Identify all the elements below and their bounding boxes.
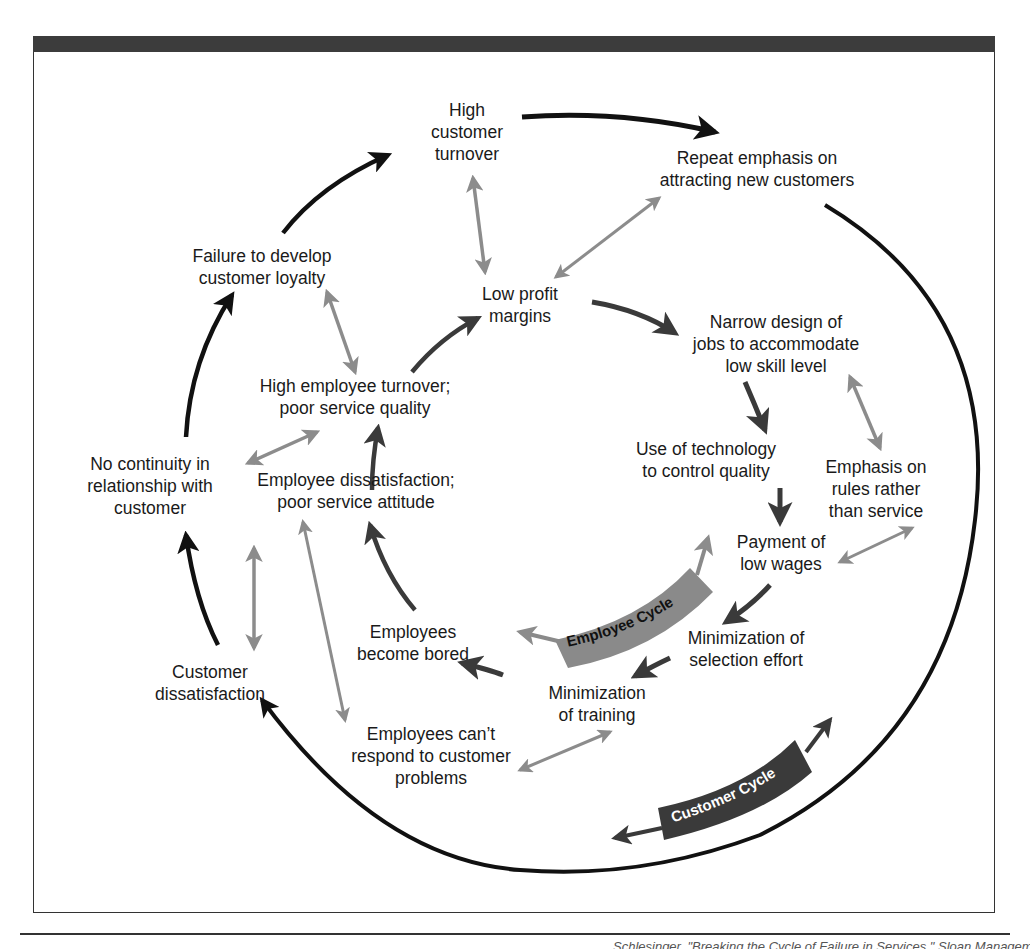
node-line: selection effort	[689, 650, 803, 670]
node-line: Employees can’t	[367, 724, 496, 744]
node-customer-dissatisfaction: Customerdissatisfaction	[155, 662, 265, 704]
node-line: customer	[114, 498, 186, 518]
link-loyalty-emp-turnover	[327, 292, 355, 372]
node-line: High employee turnover;	[260, 376, 451, 396]
node-min-selection: Minimization ofselection effort	[688, 628, 805, 670]
node-line: Low profit	[482, 284, 558, 304]
diagram-nodes: HighcustomerturnoverRepeat emphasis onat…	[87, 100, 926, 788]
node-line: than service	[829, 501, 923, 521]
arrow-no-continuity-to-failure	[186, 295, 232, 437]
link-emp-dissatisfaction-cant-respond	[303, 522, 345, 720]
node-line: Failure to develop	[192, 246, 331, 266]
link-wages-rules	[840, 528, 912, 562]
node-line: Emphasis on	[825, 457, 926, 477]
node-line: Payment of	[737, 532, 826, 552]
arrow-dissatisfaction-to-no-continuity	[186, 535, 218, 645]
node-min-training: Minimizationof training	[548, 683, 645, 725]
arc-repeat-to-customer-dissatisfaction	[262, 205, 978, 872]
node-line: Use of technology	[636, 439, 776, 459]
node-line: attracting new customers	[660, 170, 855, 190]
node-line: problems	[395, 768, 467, 788]
node-high-employee-turnover: High employee turnover;poor service qual…	[260, 376, 451, 418]
node-failure-loyalty: Failure to developcustomer loyalty	[192, 246, 331, 288]
node-high-customer-turnover: Highcustomerturnover	[431, 100, 503, 164]
node-narrow-design: Narrow design ofjobs to accommodatelow s…	[692, 312, 859, 376]
node-line: High	[449, 100, 485, 120]
node-line: Customer	[172, 662, 248, 682]
node-low-profit: Low profitmargins	[482, 284, 558, 326]
node-line: Minimization of	[688, 628, 805, 648]
arrow-bored-to-emp-dissatisfaction	[370, 525, 415, 610]
node-line: Employees	[370, 622, 457, 642]
node-line: Repeat emphasis on	[677, 148, 838, 168]
node-line: low skill level	[725, 356, 826, 376]
link-narrow-rules	[850, 377, 880, 448]
arrow-low-profit-to-narrow	[592, 302, 675, 333]
node-line: Narrow design of	[710, 312, 842, 332]
node-line: Minimization	[548, 683, 645, 703]
arrow-selection-to-training	[635, 658, 670, 676]
arrow-emp-turnover-to-low-profit	[412, 318, 478, 372]
node-line: dissatisfaction	[155, 684, 265, 704]
node-line: Employee dissatisfaction;	[257, 470, 454, 490]
arrow-failure-to-turnover	[283, 155, 388, 233]
node-line: jobs to accommodate	[692, 334, 859, 354]
node-line: of training	[559, 705, 636, 725]
node-repeat-emphasis: Repeat emphasis onattracting new custome…	[660, 148, 855, 190]
node-employees-bored: Employeesbecome bored	[357, 622, 469, 664]
node-employee-dissatisfaction: Employee dissatisfaction;poor service at…	[257, 470, 454, 512]
node-line: customer loyalty	[199, 268, 326, 288]
node-line: poor service quality	[280, 398, 431, 418]
arrow-training-to-bored	[462, 663, 503, 675]
node-line: No continuity in	[90, 454, 210, 474]
node-line: become bored	[357, 644, 469, 664]
node-payment-low-wages: Payment oflow wages	[737, 532, 826, 574]
node-line: low wages	[740, 554, 822, 574]
customer-cycle-band: Customer Cycle	[615, 720, 830, 840]
node-no-continuity: No continuity inrelationship withcustome…	[87, 454, 212, 518]
node-employees-cant-respond: Employees can’trespond to customerproble…	[351, 724, 511, 788]
link-turnover-low-profit	[473, 178, 485, 272]
link-low-profit-repeat	[556, 198, 659, 277]
node-line: poor service attitude	[277, 492, 435, 512]
node-line: turnover	[435, 144, 499, 164]
node-line: rules rather	[832, 479, 921, 499]
employee-cycle-band: Employee Cycle	[520, 538, 713, 668]
node-line: to control quality	[642, 461, 770, 481]
link-no-continuity-emp-turnover	[248, 432, 317, 463]
node-line: margins	[489, 306, 551, 326]
arrow-narrow-to-technology	[745, 382, 765, 430]
node-emphasis-rules: Emphasis onrules ratherthan service	[825, 457, 926, 521]
node-line: relationship with	[87, 476, 212, 496]
node-use-technology: Use of technologyto control quality	[636, 439, 776, 481]
link-cant-respond-training	[520, 732, 610, 770]
node-line: customer	[431, 122, 503, 142]
node-line: respond to customer	[351, 746, 511, 766]
arrow-wages-to-selection	[726, 585, 770, 622]
arrow-turnover-to-repeat	[522, 115, 715, 132]
